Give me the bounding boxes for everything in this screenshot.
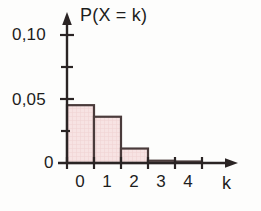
bar-series bbox=[67, 105, 202, 163]
x-tick-label-2: 2 bbox=[124, 172, 144, 192]
x-tick-label-4: 4 bbox=[178, 172, 198, 192]
x-tick-label-0: 0 bbox=[70, 172, 90, 192]
bar-k2 bbox=[121, 149, 148, 163]
y-axis-title: P(X = k) bbox=[80, 6, 147, 24]
x-tick-label-3: 3 bbox=[151, 172, 171, 192]
x-axis-title: k bbox=[222, 174, 231, 192]
y-tick-label-0-05: 0,05 bbox=[12, 91, 46, 108]
y-tick-label-0-10: 0,10 bbox=[12, 26, 46, 43]
bar-k1 bbox=[94, 117, 121, 163]
probability-histogram-figure: P(X = k) 0,10 0,05 0 0 1 2 3 4 k bbox=[0, 0, 261, 211]
y-tick-label-0: 0 bbox=[44, 154, 54, 171]
bar-k0 bbox=[67, 105, 94, 163]
x-tick-label-1: 1 bbox=[97, 172, 117, 192]
